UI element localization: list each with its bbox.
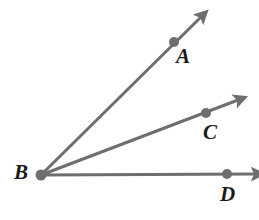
point-label-b: B	[14, 162, 28, 183]
point-c-dot	[201, 108, 211, 118]
geometry-diagram: B A C D	[0, 0, 259, 220]
point-d-dot	[222, 169, 232, 179]
point-label-c: C	[203, 122, 217, 143]
point-label-a: A	[176, 46, 190, 67]
point-label-d: D	[220, 184, 235, 205]
point-b-vertex-dot	[36, 170, 47, 181]
